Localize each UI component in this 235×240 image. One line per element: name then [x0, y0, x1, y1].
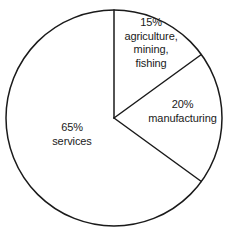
pie-slice-percent-services: 65% [36, 121, 108, 135]
pie-slice-name-manufacturing: manufacturing [136, 112, 229, 126]
pie-slice-name-agriculture-line3: fishing [114, 57, 188, 71]
pie-slice-label-manufacturing: 20% manufacturing [136, 98, 229, 125]
pie-slice-name-agriculture-line1: agriculture, [114, 30, 188, 44]
pie-slice-percent-agriculture: 15% [114, 16, 188, 30]
pie-slice-name-agriculture-line2: mining, [114, 43, 188, 57]
pie-slice-percent-manufacturing: 20% [136, 98, 229, 112]
pie-chart-figure: 15% agriculture, mining, fishing 20% man… [0, 0, 235, 240]
pie-slice-label-services: 65% services [36, 121, 108, 148]
pie-slice-label-agriculture: 15% agriculture, mining, fishing [114, 16, 188, 70]
pie-slice-name-services: services [36, 135, 108, 149]
